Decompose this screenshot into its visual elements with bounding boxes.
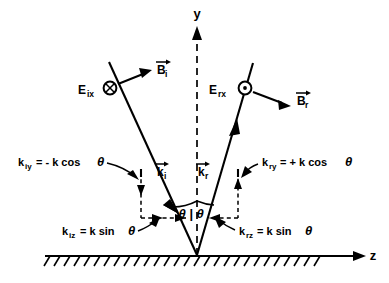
reflected-angle-label: θ (196, 206, 203, 221)
e-incident-marker-group (104, 82, 117, 95)
k-iy-eq-subscript: iy (25, 162, 32, 171)
k-iy-eq-rhs: = - k cos (36, 156, 80, 168)
k-incident-sublabel: i (164, 171, 166, 181)
y-axis-arrowhead (192, 26, 202, 40)
b-incident-arrowhead (139, 68, 152, 78)
b-incident-overbar-arrowhead (166, 60, 171, 65)
k-ry-equation: k ry = + k cos θ (241, 154, 352, 178)
k-reflected-overbar-arrowhead (205, 162, 210, 167)
k-reflected-sublabel: r (205, 171, 209, 181)
k-iy-equation: k iy = - k cos θ (18, 154, 139, 180)
k-ry-eq-subscript: ry (269, 162, 277, 171)
k-rz-eq-subscript: rz (246, 231, 253, 240)
k-iz-eq-symbol: k (62, 225, 69, 237)
e-reflected-label: E (209, 83, 217, 97)
e-reflected-marker-group (239, 82, 252, 95)
k-reflected-label: k (198, 165, 205, 179)
k-ry-eq-rhs: = + k cos (280, 156, 327, 168)
z-axis-label: z (370, 248, 377, 263)
y-axis-label: y (193, 6, 201, 21)
b-reflected-vector (253, 92, 291, 110)
b-reflected-arrowhead (278, 100, 291, 110)
k-rz-equation: k rz = k sin θ (214, 216, 312, 240)
k-incident-overbar-arrowhead (164, 162, 169, 167)
k-iz-eq-rhs: = k sin (80, 225, 115, 237)
diagram-canvas: z y E i (0, 0, 389, 283)
b-incident-sublabel: i (165, 69, 167, 79)
k-ry-eq-theta: θ (345, 154, 352, 169)
k-ry-arrowhead (234, 178, 242, 189)
k-iz-equation: k iz = k sin θ (62, 217, 160, 240)
incident-angle-label: θ (178, 206, 185, 221)
k-iy-arrowhead (137, 185, 145, 196)
e-incident-label: E (78, 83, 86, 97)
z-axis (322, 251, 366, 261)
conducting-surface (44, 256, 322, 266)
k-ry-eq-symbol: k (262, 156, 269, 168)
b-reflected-overbar-arrowhead (306, 91, 311, 96)
k-incident-label: k (157, 165, 164, 179)
z-axis-arrowhead (353, 251, 366, 261)
k-rz-eq-symbol: k (239, 225, 246, 237)
angle-separator: | (189, 206, 193, 221)
surface-hatching (44, 256, 320, 266)
b-reflected-sublabel: r (305, 100, 309, 110)
incident-ray (109, 62, 197, 255)
k-iy-eq-theta: θ (97, 154, 104, 169)
b-incident-vector (118, 68, 152, 84)
k-iy-eq-symbol: k (18, 156, 25, 168)
k-rz-eq-rhs: = k sin (257, 225, 292, 237)
reflected-ray-arrowhead (229, 118, 240, 136)
k-iz-eq-theta: θ (128, 223, 135, 238)
k-rz-eq-theta: θ (305, 223, 312, 238)
e-reflected-sublabel: rx (218, 89, 226, 99)
k-iz-eq-subscript: iz (69, 231, 75, 240)
figure-root: z y E i (0, 0, 389, 283)
e-incident-sublabel: ix (87, 89, 94, 99)
